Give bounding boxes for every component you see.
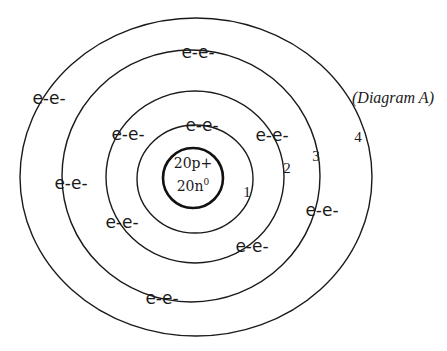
- electron-pair: e-e-: [185, 117, 218, 134]
- electron-pair: e-e-: [32, 90, 65, 107]
- nucleus-label: 20p+ 20n0: [163, 154, 223, 196]
- shell-2-number: 2: [283, 161, 291, 176]
- electron-pair: e-e-: [255, 127, 288, 144]
- electron-pair: e-e-: [181, 44, 214, 61]
- shell-1-number: 1: [243, 185, 251, 200]
- proton-count: 20p+: [163, 154, 223, 173]
- neutron-count-base: 20n: [177, 178, 204, 194]
- shell-4-number: 4: [354, 130, 362, 145]
- electron-pair: e-e-: [305, 202, 338, 219]
- neutron-count: 20n0: [163, 173, 223, 196]
- diagram-caption: (Diagram A): [352, 90, 434, 106]
- neutron-charge-superscript: 0: [204, 177, 210, 187]
- electron-pair: e-e-: [111, 126, 144, 143]
- electron-pair: e-e-: [145, 290, 178, 307]
- electron-pair: e-e-: [105, 214, 138, 231]
- electron-pair: e-e-: [235, 238, 268, 255]
- electron-pair: e-e-: [54, 175, 87, 192]
- shell-3-number: 3: [312, 149, 320, 164]
